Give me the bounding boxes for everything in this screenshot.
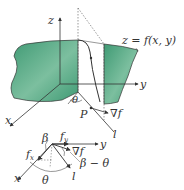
surface-label: z = f(x, y): [121, 34, 176, 47]
label-lower-x: x: [14, 172, 21, 185]
directional-derivative-diagram: z y x z = f(x, y) θ P ∇f l y x fy fx β ∇…: [0, 0, 184, 190]
label-lower-y: y: [99, 138, 107, 151]
surface-right: [104, 44, 138, 104]
lower-fx-arrow: [38, 144, 52, 160]
gradient-arrow: [91, 108, 108, 113]
lower-diagram: y x fy fx β ∇f β − θ θ l: [14, 130, 110, 187]
label-y: y: [139, 78, 147, 91]
label-P: P: [79, 108, 88, 121]
label-beta: β: [41, 132, 48, 145]
label-z: z: [47, 14, 54, 27]
label-fy: fy: [59, 130, 69, 144]
label-lower-l: l: [72, 170, 76, 183]
label-lower-theta: θ: [42, 174, 49, 187]
label-beta-minus-theta: β − θ: [79, 157, 110, 170]
label-fx: fx: [25, 148, 34, 162]
label-grad-upper: ∇f: [110, 107, 124, 120]
surface-left: [11, 40, 78, 102]
label-x: x: [5, 114, 12, 127]
label-theta-upper: θ: [72, 94, 78, 105]
surface-curve: [78, 40, 100, 102]
lower-l-arrow: [52, 144, 70, 168]
label-l-upper: l: [113, 128, 117, 141]
